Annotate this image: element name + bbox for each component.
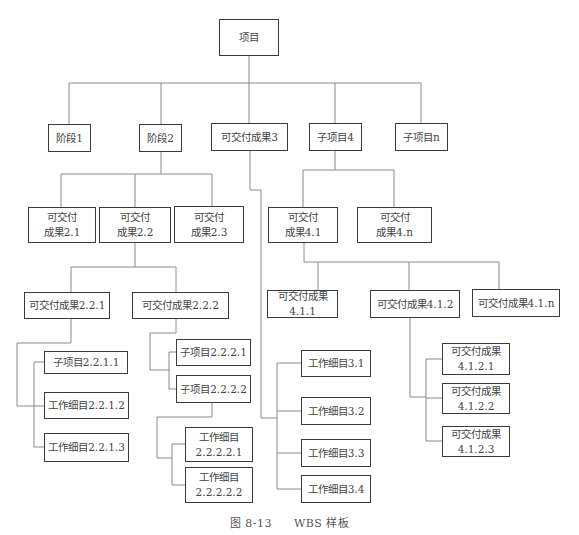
node-work-package-3-2: 工作细目3.2 — [301, 397, 371, 425]
node-label: 可交付成果3 — [221, 130, 278, 145]
node-deliverable-4-n: 可交付 成果4.n — [357, 207, 432, 243]
node-label: 工作细目3.2 — [308, 404, 365, 419]
node-label: 可交付 成果2.2 — [117, 210, 154, 240]
node-label: 可交付成果4.1.2 — [377, 297, 454, 312]
node-label: 可交付成果 4.1.2.2 — [451, 384, 501, 414]
node-root: 项目 — [219, 19, 279, 56]
node-deliverable-4-1-2: 可交付成果4.1.2 — [370, 290, 460, 318]
node-label: 子项目n — [403, 130, 440, 145]
node-label: 工作细目3.1 — [308, 356, 365, 371]
node-deliverable-4-1-n: 可交付成果4.1.n — [472, 289, 560, 317]
figure-number: 图 8-13 — [230, 517, 272, 530]
node-label: 工作细目 2.2.2.2.1 — [196, 430, 243, 460]
node-label: 可交付 成果4.1 — [285, 210, 322, 240]
node-label: 阶段2 — [147, 131, 174, 146]
figure-title: WBS 样板 — [294, 517, 349, 530]
node-label: 子项目2.2.2.1 — [180, 345, 247, 360]
node-label: 子项目2.2.2.2 — [180, 382, 247, 397]
node-subproject-4: 子项目4 — [309, 123, 362, 151]
node-label: 可交付成果4.1.1 — [268, 289, 337, 319]
node-deliverable-4-1: 可交付 成果4.1 — [268, 207, 338, 243]
figure-caption: 图 8-13WBS 样板 — [0, 514, 579, 530]
node-label: 可交付 成果2.1 — [44, 210, 81, 240]
node-work-package-2-2-2-2-1: 工作细目 2.2.2.2.1 — [185, 427, 253, 462]
node-subproject-n: 子项目n — [395, 123, 448, 151]
node-deliverable-2-2: 可交付 成果2.2 — [99, 207, 171, 243]
node-subproject-2-2-1-1: 子项目2.2.1.1 — [44, 351, 128, 374]
node-label: 可交付成果2.2.1 — [29, 298, 106, 313]
node-deliverable-4-1-2-1: 可交付成果 4.1.2.1 — [442, 343, 510, 375]
node-label: 可交付成果2.2.2 — [142, 298, 219, 313]
node-label: 子项目4 — [317, 130, 354, 145]
node-deliverable-2-2-2: 可交付成果2.2.2 — [132, 292, 229, 319]
node-deliverable-2-2-1: 可交付成果2.2.1 — [24, 292, 110, 319]
node-work-package-2-2-1-3: 工作细目2.2.1.3 — [44, 433, 129, 462]
node-deliverable-4-1-2-3: 可交付成果 4.1.2.3 — [442, 426, 510, 457]
node-label: 工作细目 2.2.2.2.2 — [196, 470, 243, 500]
node-label: 工作细目3.3 — [308, 446, 365, 461]
node-deliverable-3: 可交付成果3 — [211, 123, 288, 151]
node-label: 阶段1 — [56, 131, 83, 146]
node-subproject-2-2-2-1: 子项目2.2.2.1 — [176, 339, 251, 366]
node-label: 项目 — [239, 30, 259, 45]
node-stage-1: 阶段1 — [48, 124, 91, 152]
node-work-package-3-4: 工作细目3.4 — [301, 475, 371, 503]
node-label: 可交付成果4.1.n — [478, 296, 555, 311]
node-work-package-2-2-2-2-2: 工作细目 2.2.2.2.2 — [185, 467, 253, 503]
node-label: 可交付成果 4.1.2.3 — [451, 427, 501, 457]
node-work-package-2-2-1-2: 工作细目2.2.1.2 — [44, 392, 129, 419]
node-deliverable-2-3: 可交付 成果2.3 — [174, 206, 244, 243]
node-subproject-2-2-2-2: 子项目2.2.2.2 — [176, 375, 251, 403]
node-work-package-3-1: 工作细目3.1 — [301, 350, 371, 377]
node-work-package-3-3: 工作细目3.3 — [301, 439, 371, 467]
node-stage-2: 阶段2 — [139, 124, 182, 152]
node-deliverable-2-1: 可交付 成果2.1 — [28, 207, 96, 243]
node-label: 工作细目2.2.1.2 — [48, 398, 125, 413]
node-label: 可交付 成果4.n — [376, 210, 413, 240]
node-label: 工作细目3.4 — [308, 482, 365, 497]
node-label: 子项目2.2.1.1 — [53, 355, 120, 370]
node-deliverable-4-1-1: 可交付成果4.1.1 — [267, 290, 338, 318]
node-deliverable-4-1-2-2: 可交付成果 4.1.2.2 — [442, 383, 510, 414]
node-label: 工作细目2.2.1.3 — [48, 440, 125, 455]
node-label: 可交付 成果2.3 — [191, 210, 228, 240]
node-label: 可交付成果 4.1.2.1 — [451, 344, 501, 374]
